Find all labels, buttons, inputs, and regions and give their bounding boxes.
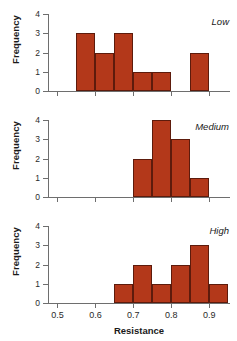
x-tick-label-0: 0.5 bbox=[44, 310, 70, 320]
y-tick-label-medium-2: 2 bbox=[22, 155, 40, 163]
x-axis-line-low bbox=[48, 91, 230, 92]
x-tick-medium-0 bbox=[57, 197, 58, 202]
bar-medium-1 bbox=[152, 120, 171, 197]
bar-medium-0 bbox=[133, 159, 152, 198]
x-tick-label-2: 0.7 bbox=[120, 310, 146, 320]
bar-high-5 bbox=[209, 284, 228, 303]
bar-high-0 bbox=[114, 284, 133, 303]
bar-low-6 bbox=[190, 53, 209, 92]
y-tick-label-low-3: 3 bbox=[22, 29, 40, 37]
bar-high-2 bbox=[152, 284, 171, 303]
x-tick-high-4 bbox=[209, 303, 210, 308]
y-axis-title-low: Frequency bbox=[10, 5, 21, 75]
histogram-figure: Frequency 01234 Low Frequency 01234 Medi… bbox=[0, 0, 237, 341]
y-tick-medium-0 bbox=[43, 197, 48, 198]
x-tick-medium-3 bbox=[171, 197, 172, 202]
y-axis-title-high: Frequency bbox=[10, 217, 21, 287]
y-tick-high-0 bbox=[43, 303, 48, 304]
x-tick-medium-4 bbox=[209, 197, 210, 202]
panel-label-medium: Medium bbox=[195, 121, 229, 132]
x-tick-medium-1 bbox=[95, 197, 96, 202]
x-tick-low-3 bbox=[171, 91, 172, 96]
x-tick-label-3: 0.8 bbox=[158, 310, 184, 320]
y-tick-label-medium-3: 3 bbox=[22, 135, 40, 143]
y-tick-label-low-4: 4 bbox=[22, 10, 40, 18]
bar-high-1 bbox=[133, 265, 152, 304]
bar-low-3 bbox=[133, 72, 152, 91]
y-tick-label-high-0: 0 bbox=[22, 299, 40, 307]
x-axis-line-medium bbox=[48, 197, 230, 198]
y-tick-label-high-3: 3 bbox=[22, 241, 40, 249]
x-tick-label-4: 0.9 bbox=[196, 310, 222, 320]
y-tick-label-medium-1: 1 bbox=[22, 174, 40, 182]
x-tick-label-1: 0.6 bbox=[82, 310, 108, 320]
x-tick-low-2 bbox=[133, 91, 134, 96]
x-tick-high-2 bbox=[133, 303, 134, 308]
y-tick-label-low-1: 1 bbox=[22, 68, 40, 76]
y-tick-label-low-0: 0 bbox=[22, 87, 40, 95]
y-tick-label-medium-0: 0 bbox=[22, 193, 40, 201]
bar-high-3 bbox=[171, 265, 190, 304]
x-axis-line-high bbox=[48, 303, 230, 304]
x-tick-low-1 bbox=[95, 91, 96, 96]
bar-low-2 bbox=[114, 33, 133, 91]
panel-medium: Frequency 01234 Medium bbox=[0, 112, 237, 216]
x-tick-high-1 bbox=[95, 303, 96, 308]
panel-high: Frequency 01234 High 0.50.60.70.80.9 Res… bbox=[0, 218, 237, 322]
bars-low bbox=[48, 14, 230, 91]
x-tick-medium-2 bbox=[133, 197, 134, 202]
y-tick-label-high-2: 2 bbox=[22, 261, 40, 269]
y-tick-label-low-2: 2 bbox=[22, 49, 40, 57]
x-tick-low-0 bbox=[57, 91, 58, 96]
y-tick-low-0 bbox=[43, 91, 48, 92]
bar-high-4 bbox=[190, 245, 209, 303]
bar-low-4 bbox=[152, 72, 171, 91]
bar-low-1 bbox=[95, 53, 114, 92]
bar-medium-3 bbox=[190, 178, 209, 197]
panel-label-low: Low bbox=[212, 16, 229, 27]
x-axis-title: Resistance bbox=[48, 325, 230, 336]
x-tick-high-3 bbox=[171, 303, 172, 308]
x-tick-high-0 bbox=[57, 303, 58, 308]
x-tick-low-4 bbox=[209, 91, 210, 96]
bars-high bbox=[48, 226, 230, 303]
bar-medium-2 bbox=[171, 139, 190, 197]
y-tick-label-high-4: 4 bbox=[22, 222, 40, 230]
y-axis-title-medium: Frequency bbox=[10, 111, 21, 181]
bar-low-0 bbox=[76, 33, 95, 91]
y-tick-label-high-1: 1 bbox=[22, 280, 40, 288]
y-tick-label-medium-4: 4 bbox=[22, 116, 40, 124]
panel-low: Frequency 01234 Low bbox=[0, 6, 237, 110]
panel-label-high: High bbox=[209, 225, 229, 236]
